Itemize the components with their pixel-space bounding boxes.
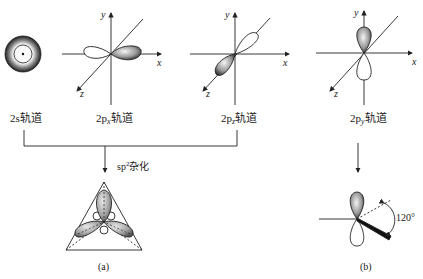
axis-label-y: y: [225, 10, 229, 20]
sp2-hybrid-orbitals: [66, 182, 142, 250]
label-2px-orbital: 2px轨道: [96, 112, 133, 124]
hybridization-label: sp2杂化: [117, 158, 149, 173]
unhybridized-p-orbital: [319, 192, 395, 246]
axis-label-y: y: [354, 8, 358, 18]
axis-label-z: z: [334, 89, 338, 99]
label-2pz-orbital: 2pz轨道: [221, 112, 257, 124]
2s-orbital: [5, 36, 41, 72]
axis-label-y: y: [101, 10, 105, 20]
axis-label-x: x: [157, 58, 161, 68]
2py-orbital: [316, 11, 412, 105]
caption-b: (b): [360, 261, 372, 272]
angle-label: 120°: [396, 212, 415, 223]
axis-label-x: x: [412, 57, 416, 67]
axis-label-z: z: [80, 89, 84, 99]
axis-label-z: z: [206, 89, 210, 99]
2px-orbital: [62, 13, 161, 105]
2pz-orbital: [190, 13, 289, 105]
orbital-diagram: [0, 0, 423, 279]
caption-a: (a): [98, 261, 109, 272]
label-2s-orbital: 2s轨道: [10, 112, 42, 124]
label-2py-orbital: 2py轨道: [350, 112, 387, 124]
axis-label-x: x: [283, 58, 287, 68]
